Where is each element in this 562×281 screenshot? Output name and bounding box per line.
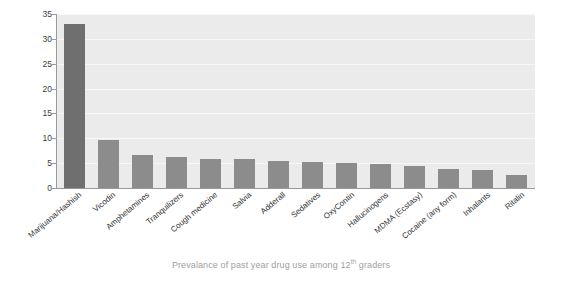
bar <box>438 169 459 188</box>
bar <box>268 161 289 188</box>
bar <box>200 159 221 188</box>
x-tick-label: Salvia <box>232 191 254 211</box>
caption-text-tail: graders <box>356 260 390 270</box>
bar-chart: Percent 05101520253035 Marijuana/Hashish… <box>0 0 562 281</box>
chart-caption: Prevalance of past year drug use among 1… <box>0 258 562 270</box>
bar <box>472 170 493 188</box>
bar <box>506 175 527 188</box>
bar <box>370 164 391 188</box>
x-axis-tick-labels: Marijuana/HashishVicodinAmphetaminesTran… <box>57 189 534 249</box>
x-tick-label: Adderall <box>260 191 288 216</box>
y-axis-ticks: 05101520253035 <box>0 14 56 188</box>
caption-text: Prevalance of past year drug use among 1… <box>172 260 351 270</box>
bar <box>234 159 255 188</box>
bar <box>166 157 187 188</box>
bar <box>336 163 357 188</box>
bar <box>404 166 425 188</box>
x-tick-label: Vicodin <box>92 191 117 214</box>
x-tick-label: OxyContin <box>322 191 356 221</box>
bar <box>302 162 323 188</box>
bar <box>64 24 85 188</box>
bar <box>98 140 119 188</box>
x-tick-label: Sedatives <box>290 191 322 220</box>
bar-series <box>57 14 534 188</box>
bar <box>132 155 153 188</box>
x-tick-label: Marijuana/Hashish <box>27 191 83 240</box>
x-tick-label: Inhalants <box>462 191 492 218</box>
x-tick-label: Ritalin <box>504 191 526 211</box>
